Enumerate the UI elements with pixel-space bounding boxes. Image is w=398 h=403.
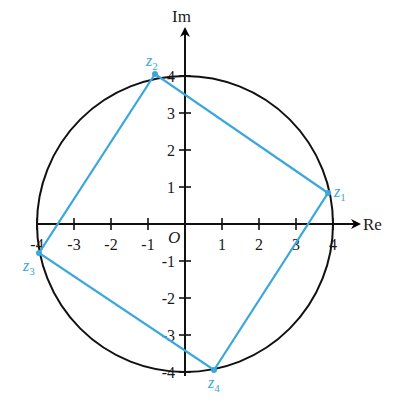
y-tick-label: -1: [162, 253, 175, 270]
y-tick-label: 2: [167, 142, 175, 159]
y-tick-label: 1: [167, 179, 175, 196]
x-tick-label: -2: [104, 236, 117, 253]
vertex-label-z1: z1: [333, 183, 346, 203]
x-tick-label: -1: [141, 236, 154, 253]
y-tick-label: -2: [162, 290, 175, 307]
complex-plane-diagram: -4 -3 -2 -1 1 2 3 4 4 3 2 1 -1 -2 -3 -4 …: [0, 0, 398, 403]
real-axis-label: Re: [363, 215, 382, 234]
x-tick-label: 1: [218, 236, 226, 253]
origin-label: O: [168, 228, 180, 247]
vertex-label-z2: z2: [145, 52, 158, 72]
x-tick-label: 4: [329, 236, 337, 253]
x-tick-label: 2: [255, 236, 263, 253]
x-tick-label: -3: [67, 236, 80, 253]
y-tick-label: 3: [167, 105, 175, 122]
y-tick-label: -4: [162, 364, 175, 381]
vertex-label-z3: z3: [22, 257, 35, 277]
imaginary-axis-label: Im: [172, 7, 191, 26]
vertex-label-z4: z4: [207, 374, 220, 394]
